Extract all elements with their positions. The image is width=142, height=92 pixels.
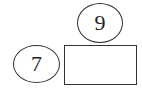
- top-number: 9: [95, 12, 106, 34]
- top-number-ellipse: 9: [77, 3, 123, 43]
- left-number-ellipse: 7: [13, 45, 60, 83]
- answer-box[interactable]: [64, 45, 137, 85]
- left-number: 7: [31, 53, 42, 75]
